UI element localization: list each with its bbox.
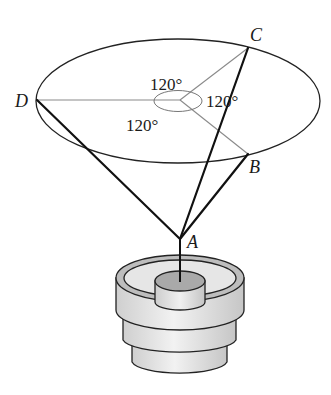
- cable-AD: [37, 100, 180, 239]
- angle-label-top: 120°: [150, 75, 182, 94]
- point-label-B: B: [249, 157, 260, 177]
- point-label-C: C: [250, 25, 263, 45]
- tripod-cable-diagram: 120° 120° 120° D C B A: [0, 0, 331, 395]
- cables: [37, 48, 248, 239]
- point-label-A: A: [186, 232, 199, 252]
- cable-AB: [180, 154, 248, 239]
- cable-AC: [180, 48, 248, 239]
- point-label-D: D: [14, 91, 28, 111]
- angle-label-right: 120°: [206, 92, 238, 111]
- support-ring: [36, 39, 320, 163]
- angle-label-bottom: 120°: [126, 116, 158, 135]
